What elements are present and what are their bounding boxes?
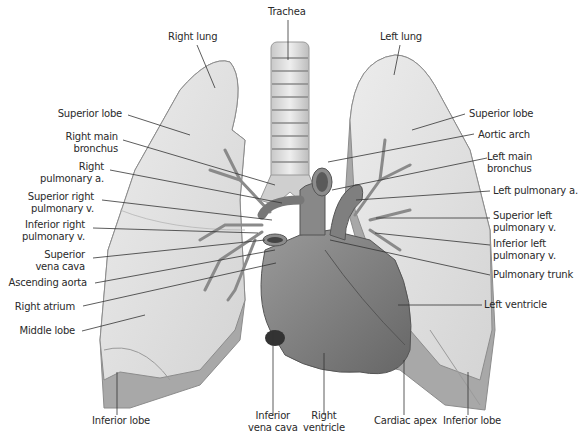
label-inferior-vena-cava: Inferior vena cava [248,410,298,433]
label-inferior-left-pulmonary-v: Inferior left pulmonary v. [493,238,556,261]
label-right-lung: Right lung [168,31,217,43]
label-right-main-bronchus: Right main bronchus [66,131,119,154]
label-superior-lobe-right: Superior lobe [58,108,122,120]
label-inferior-right-pulmonary-v: Inferior right pulmonary v. [22,219,85,242]
label-cardiac-apex: Cardiac apex [374,415,437,427]
label-right-ventricle: Right ventricle [303,410,345,433]
label-middle-lobe: Middle lobe [20,325,75,337]
label-superior-left-pulmonary-v: Superior left pulmonary v. [493,210,556,233]
label-inferior-lobe-right: Inferior lobe [92,415,150,427]
label-right-pulmonary-a: Right pulmonary a. [40,161,104,184]
label-superior-lobe-left: Superior lobe [469,108,533,120]
label-superior-right-pulmonary-v: Superior right pulmonary v. [28,191,94,214]
label-superior-vena-cava: Superior vena cava [35,249,85,272]
label-ascending-aorta: Ascending aorta [9,277,87,289]
label-aortic-arch: Aortic arch [478,129,530,141]
label-trachea: Trachea [268,6,306,18]
label-left-pulmonary-a: Left pulmonary a. [493,185,578,197]
label-right-atrium: Right atrium [15,301,75,313]
trachea [260,42,320,205]
heart-lungs-diagram: Trachea Right lung Left lung Superior lo… [0,0,584,439]
label-pulmonary-trunk: Pulmonary trunk [493,269,573,281]
label-left-lung: Left lung [380,31,422,43]
label-left-ventricle: Left ventricle [484,299,547,311]
label-left-main-bronchus: Left main bronchus [487,151,532,174]
label-inferior-lobe-left: Inferior lobe [443,415,501,427]
